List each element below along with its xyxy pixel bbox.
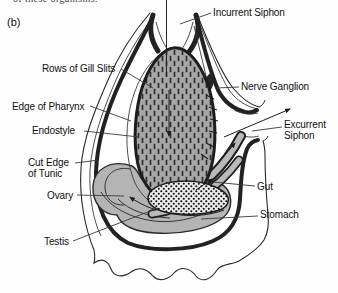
label-incurrent-siphon: Incurrent Siphon [213, 7, 285, 18]
label-stomach: Stomach [260, 209, 299, 220]
label-edge-of-pharynx: Edge of Pharynx [12, 101, 84, 112]
panel-letter: (b) [7, 16, 20, 28]
label-cut-edge-of-tunic: Cut Edge of Tunic [28, 157, 78, 179]
anatomy-drawing [0, 0, 338, 293]
tunicate-anatomy-figure: of these organisms. (b) Incurrent Siphon… [0, 0, 338, 293]
label-endostyle: Endostyle [32, 125, 75, 136]
label-nerve-ganglion: Nerve Ganglion [241, 81, 309, 92]
label-gut: Gut [257, 181, 273, 192]
label-testis: Testis [44, 236, 69, 247]
label-ovary: Ovary [47, 190, 73, 201]
label-rows-of-gill-slits: Rows of Gill Slits [42, 63, 115, 74]
label-excurrent-siphon: Excurrent Siphon [284, 119, 338, 141]
clipped-caption-text: of these organisms. [13, 0, 98, 4]
